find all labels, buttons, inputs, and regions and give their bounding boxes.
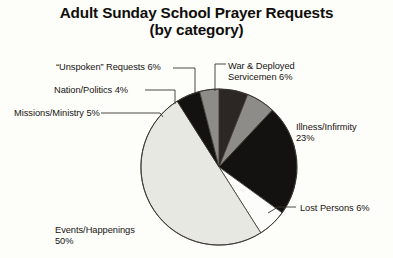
chart-page: Adult Sunday School Prayer Requests (by …	[0, 0, 393, 258]
slice-label-illness: Illness/Infirmity 23%	[296, 122, 357, 143]
leader-line-nation	[145, 90, 175, 104]
slice-label-nation-text: Nation/Politics 4%	[54, 85, 128, 95]
slice-label-events-line-1: Events/Happenings	[55, 225, 135, 235]
pie-slice-group	[141, 89, 297, 245]
leader-line-unspoken	[173, 68, 195, 93]
leader-line-war	[215, 64, 226, 91]
leader-line-missions	[101, 113, 163, 117]
slice-label-illness-line-1: Illness/Infirmity	[296, 122, 357, 132]
slice-label-events-line-2: 50%	[55, 236, 135, 247]
slice-label-war-line-1: War & Deployed	[228, 61, 295, 71]
slice-label-missions-text: Missions/Ministry 5%	[14, 108, 100, 118]
slice-label-war: War & Deployed Servicemen 6%	[228, 61, 295, 82]
slice-label-unspoken-text: “Unspoken” Requests 6%	[56, 62, 161, 72]
slice-label-lost: Lost Persons 6%	[300, 203, 370, 214]
slice-label-unspoken: “Unspoken” Requests 6%	[56, 62, 161, 73]
slice-label-lost-text: Lost Persons 6%	[300, 203, 370, 213]
slice-label-nation: Nation/Politics 4%	[54, 85, 128, 96]
slice-label-missions: Missions/Ministry 5%	[14, 108, 100, 119]
slice-label-illness-line-2: 23%	[296, 133, 357, 144]
slice-label-war-line-2: Servicemen 6%	[228, 72, 295, 83]
slice-label-events: Events/Happenings 50%	[55, 225, 135, 246]
